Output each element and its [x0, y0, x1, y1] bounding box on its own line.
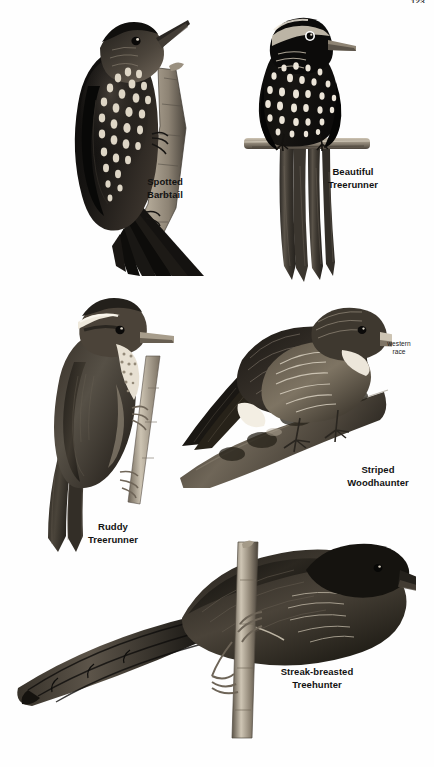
tail	[17, 616, 202, 706]
caption-striped-woodhaunter: Striped Woodhaunter	[328, 464, 428, 489]
eye	[374, 564, 383, 572]
annotation-western-race: western race	[376, 340, 422, 357]
eye	[358, 326, 367, 334]
streak-breasted-treehunter-illustration	[6, 540, 416, 740]
caption-beautiful-treerunner: Beautiful Treerunner	[307, 166, 399, 191]
figure-striped-woodhaunter	[176, 298, 392, 488]
ruddy-treerunner-illustration	[28, 292, 198, 557]
figure-beautiful-treerunner	[244, 6, 370, 291]
eye	[307, 33, 314, 40]
figure-spotted-barbtail	[36, 8, 226, 278]
striped-woodhaunter-illustration	[176, 298, 392, 488]
beautiful-treerunner-illustration	[244, 6, 370, 291]
caption-spotted-barbtail: Spotted Barbtail	[128, 176, 202, 201]
caption-streak-breasted-treehunter: Streak-breasted Treehunter	[258, 666, 376, 691]
page-number: 123	[411, 0, 425, 3]
eye	[115, 326, 124, 334]
eye	[131, 37, 140, 45]
figure-ruddy-treerunner	[28, 292, 198, 557]
field-guide-plate: 123	[0, 0, 434, 767]
figure-streak-breasted-treehunter	[6, 540, 416, 740]
spotted-barbtail-illustration	[36, 8, 226, 278]
